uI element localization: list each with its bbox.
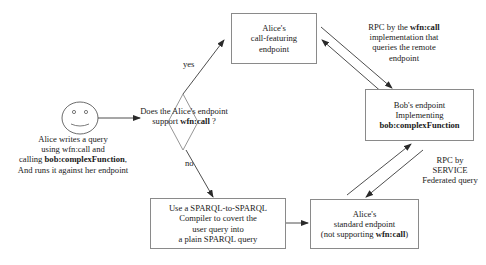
actor-caption-line3: calling bob:complexFunction, (2, 154, 144, 164)
node-bob-endpoint: Bob's endpoint Implementing bob:complexF… (365, 89, 474, 141)
node-call-featuring-endpoint: Alice's call-featuring endpoint (231, 13, 317, 64)
edge-label-rpc-service: RPC by SERVICE Federated query (405, 155, 486, 186)
actor-caption-line1: Alice writes a query (2, 134, 144, 144)
smiley-face-icon (62, 102, 98, 134)
yes-label: yes (183, 59, 194, 69)
workflow-diagram: Alice writes a query using wfn:call and … (0, 0, 486, 265)
node-sparql-compiler: Use a SPARQL-to-SPARQL Compiler to cover… (150, 198, 286, 249)
actor-caption-line2: using wfn:call and (2, 144, 144, 154)
arrow-standard-to-bob (347, 144, 411, 195)
actor-caption: Alice writes a query using wfn:call and … (2, 134, 144, 175)
no-label: no (185, 158, 194, 168)
decision-question: Does the Alice's endpoint support wfn:ca… (128, 106, 240, 126)
node-standard-endpoint: Alice's standard endpoint (not supportin… (310, 199, 419, 249)
actor-caption-line4: And runs it against her endpoint (2, 165, 144, 175)
edge-label-rpc-wfn-call: RPC by the wfn:call implementation that … (354, 22, 454, 63)
